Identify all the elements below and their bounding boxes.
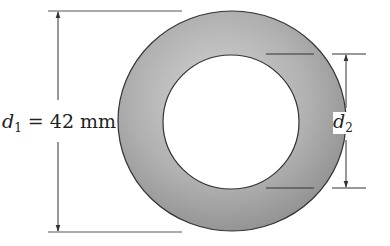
outer-diameter-label: d1 = 42 mm xyxy=(2,112,116,134)
inner-diameter-symbol: d xyxy=(333,110,345,132)
annulus-ring xyxy=(118,11,346,231)
inner-diameter-label: d2 xyxy=(333,112,353,134)
equals-sign: = xyxy=(28,110,44,132)
outer-diameter-symbol: d xyxy=(2,110,14,132)
outer-diameter-subscript: 1 xyxy=(14,121,22,135)
inner-diameter-subscript: 2 xyxy=(345,121,353,135)
outer-diameter-value: 42 mm xyxy=(50,110,116,132)
